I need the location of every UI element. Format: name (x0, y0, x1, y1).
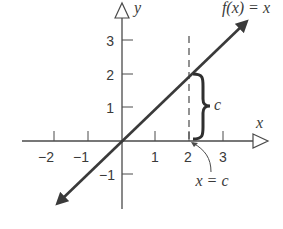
y-axis (115, 3, 133, 209)
x-tick-label: −1 (73, 149, 89, 165)
y-tick-label: 1 (106, 100, 114, 116)
x-tick-label: 2 (184, 149, 192, 165)
y-axis-arrow-icon (115, 3, 129, 18)
y-tick-label: 3 (106, 33, 114, 49)
x-tick-label: −2 (38, 149, 54, 165)
pointer-arrow-icon (193, 143, 211, 172)
y-tick-label: 2 (106, 67, 114, 83)
x-axis (22, 131, 268, 148)
brace-icon (193, 74, 210, 139)
y-axis-label: y (132, 0, 142, 17)
pointer-arrowhead-icon (191, 142, 198, 147)
x-tick-label: 3 (219, 149, 227, 165)
x-tick-label: 1 (151, 149, 159, 165)
function-graph: −2 −1 1 2 3 3 2 1 −1 y x f(x) = x c x = … (0, 0, 283, 229)
vertical-line-label: x = c (195, 172, 229, 189)
y-tick-label: −1 (99, 167, 115, 183)
brace-label: c (214, 96, 221, 113)
function-label: f(x) = x (222, 0, 270, 17)
x-axis-arrow-icon (253, 134, 268, 148)
x-axis-label: x (255, 114, 263, 131)
